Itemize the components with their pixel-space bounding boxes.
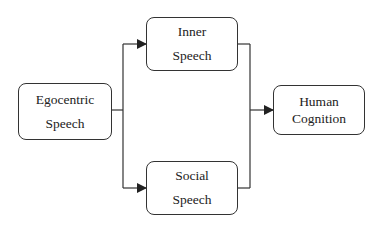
node-human-cognition: Human Cognition [273, 85, 365, 135]
node-label-line: Social [175, 168, 209, 184]
node-label-line: Speech [46, 116, 85, 132]
diagram-canvas: Egocentric Speech Inner Speech Social Sp… [0, 0, 380, 225]
edge-egocentric-branch [112, 44, 146, 188]
node-label-line: Speech [173, 192, 212, 208]
edge-merge-to-human [238, 44, 273, 188]
node-label-line: Speech [173, 48, 212, 64]
node-label-line: Human [299, 93, 339, 110]
node-label-line: Cognition [292, 110, 346, 127]
node-label-line: Inner [178, 24, 206, 40]
node-inner-speech: Inner Speech [146, 17, 238, 71]
node-label-line: Egocentric [36, 92, 94, 108]
node-social-speech: Social Speech [146, 161, 238, 215]
node-egocentric-speech: Egocentric Speech [18, 83, 112, 140]
